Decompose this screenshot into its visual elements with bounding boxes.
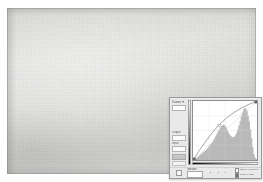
- checkbox-row[interactable]: Light (0-255): [235, 173, 255, 178]
- screenshot-root: Curves Output: Input:: [0, 0, 263, 182]
- curve-control-point[interactable]: [193, 158, 195, 160]
- output-gradient-bar: [188, 100, 191, 165]
- eyedropper-group: [207, 170, 227, 176]
- auto-button[interactable]: [172, 154, 186, 159]
- light-checkbox[interactable]: [235, 173, 240, 178]
- curves-graph[interactable]: [192, 100, 258, 161]
- graph-row: [188, 100, 258, 165]
- curves-graph-area: [187, 98, 261, 167]
- curve-tools-group: [172, 170, 185, 176]
- eyedropper-black-point-icon[interactable]: [207, 170, 212, 176]
- options-button[interactable]: [172, 161, 186, 166]
- curves-dialog-body: Curves Output: Input:: [170, 98, 261, 167]
- graph-column: [192, 100, 258, 165]
- smooth-label: Smooth: [187, 168, 203, 171]
- curve-control-point[interactable]: [255, 101, 257, 103]
- side-spacer: [172, 113, 186, 131]
- curves-dialog[interactable]: Curves Output: Input:: [169, 97, 262, 179]
- curves-plot[interactable]: [193, 101, 257, 160]
- output-field[interactable]: [172, 135, 186, 141]
- curves-toolbar: Smooth Show Amount of:: [170, 167, 261, 178]
- smooth-group: Smooth: [187, 168, 203, 179]
- show-amount-checkbox[interactable]: [235, 168, 240, 173]
- curve-pencil-icon[interactable]: [176, 170, 182, 176]
- input-label: Input:: [172, 142, 186, 145]
- input-gradient-bar: [192, 162, 258, 165]
- smooth-button[interactable]: [187, 171, 203, 178]
- preset-row: Curves: [172, 100, 186, 104]
- input-field[interactable]: [172, 146, 186, 152]
- dialog-title: Curves: [172, 100, 181, 104]
- show-amount-label: Show Amount of:: [240, 169, 259, 172]
- output-label: Output:: [172, 131, 186, 134]
- curve-control-point[interactable]: [218, 124, 220, 126]
- eyedropper-gray-point-icon[interactable]: [215, 170, 220, 176]
- eyedropper-white-point-icon[interactable]: [222, 170, 227, 176]
- input-group: Input:: [172, 142, 186, 152]
- curves-side-panel: Curves Output: Input:: [170, 98, 187, 167]
- display-options-group: Show Amount of: Light (0-255): [235, 168, 259, 178]
- light-label: Light (0-255): [240, 174, 254, 177]
- checkbox-row[interactable]: Show Amount of:: [235, 168, 259, 173]
- preset-dropdown[interactable]: [172, 105, 186, 111]
- chevron-down-icon[interactable]: [182, 101, 184, 103]
- output-group: Output:: [172, 131, 186, 141]
